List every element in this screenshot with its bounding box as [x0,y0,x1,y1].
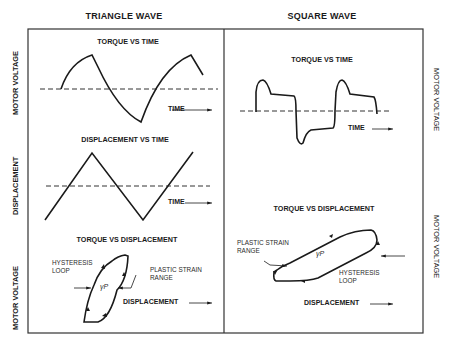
right-axis-label-motor-voltage-bottom: MOTOR VOLTAGE [432,215,441,278]
triangle-loop-title: TORQUE VS DISPLACEMENT [77,235,178,244]
triangle-displacement-plot [45,152,212,220]
left-axis-label-motor-voltage-top: MOTOR VOLTAGE [11,51,20,115]
triangle-plastic-strain-note: PLASTIC STRAIN RANGE [150,266,202,281]
square-torque-plot [240,80,393,144]
triangle-torque-title: TORQUE VS TIME [97,37,158,46]
triangle-torque-xlabel: TIME [168,105,185,112]
triangle-gamma-p-symbol: γP [100,283,108,290]
triangle-displacement-title: DISPLACEMENT VS TIME [81,135,168,144]
right-axis-label-motor-voltage-top: MOTOR VOLTAGE [432,68,441,131]
square-torque-title: TORQUE VS TIME [291,55,352,64]
loop-direction-arrow [101,264,105,269]
torque-curve [256,80,377,144]
loop-direction-arrow [102,313,107,317]
square-hysteresis-loop-note: HYSTERESIS LOOP [339,269,380,284]
outer-frame [28,29,423,333]
triangle-torque-plot [40,55,218,122]
triangle-hysteresis-loop-note: HYSTERESIS LOOP [52,259,93,274]
triangle-displacement-xlabel: TIME [168,198,185,205]
diagram-canvas [0,0,450,349]
square-gamma-p-symbol: γP [316,250,324,257]
square-plastic-strain-note: PLASTIC STRAIN RANGE [237,239,289,254]
square-loop-title: TORQUE VS DISPLACEMENT [274,204,375,213]
triangle-loop-xlabel: DISPLACEMENT [123,298,178,305]
loop-direction-arrow [329,234,333,238]
square-torque-xlabel: TIME [348,124,365,131]
left-axis-label-motor-voltage-bottom: MOTOR VOLTAGE [11,266,20,330]
left-axis-label-displacement: DISPLACEMENT [11,157,20,215]
square-loop-xlabel: DISPLACEMENT [304,299,359,306]
